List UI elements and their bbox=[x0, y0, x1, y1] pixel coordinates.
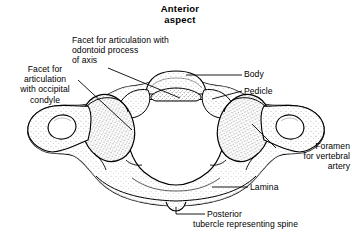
anatomical-figure: Anterior aspect Facet for articulation w… bbox=[0, 0, 352, 238]
label-facet-for-occipital-condyle: Facet for articulation with occipital co… bbox=[2, 64, 88, 105]
figure-title: Anterior aspect bbox=[120, 3, 240, 25]
label-body: Body bbox=[244, 69, 314, 79]
label-posterior-sub: tubercle representing spine bbox=[141, 219, 350, 229]
label-foramen-for-vertebral-artery: Foramen for vertebral artery bbox=[276, 141, 350, 172]
label-posterior-tubercle: Posteriortubercle representing spine bbox=[207, 209, 350, 229]
label-facet-for-odontoid-process: Facet for articulation with odontoid pro… bbox=[72, 35, 212, 66]
label-posterior-main: Posterior bbox=[207, 209, 242, 219]
label-pedicle: Pedicle bbox=[244, 86, 314, 96]
label-lamina: Lamina bbox=[250, 182, 320, 192]
